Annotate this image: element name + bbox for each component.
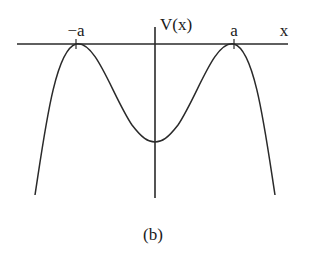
figure-caption: (b) — [143, 225, 163, 244]
tick-label-plus-a: a — [230, 21, 238, 40]
tick-label-minus-a: −a — [67, 21, 85, 40]
y-axis-label: V(x) — [160, 15, 192, 34]
x-axis-label: x — [280, 21, 289, 40]
potential-diagram: −a a V(x) x (b) — [0, 0, 310, 258]
